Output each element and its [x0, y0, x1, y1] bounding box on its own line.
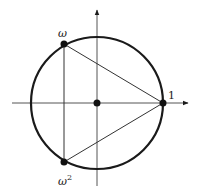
roots-of-unity-diagram: 1 ω ω2: [0, 0, 199, 196]
label-omega: ω: [58, 27, 67, 40]
point-omega-squared: [61, 159, 68, 166]
origin-point: [94, 100, 101, 107]
label-omega-squared: ω2: [58, 173, 72, 188]
label-omega-squared-exp: 2: [67, 173, 72, 182]
label-one: 1: [168, 89, 175, 102]
label-omega-squared-base: ω: [58, 175, 67, 188]
point-one: [160, 100, 167, 107]
point-omega: [61, 41, 68, 48]
